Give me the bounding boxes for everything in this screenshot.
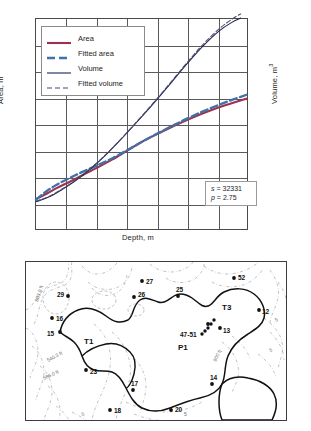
map-point-label-13: 13: [223, 327, 231, 334]
map-point-52: [232, 276, 236, 280]
map-point-label-52: 52: [238, 274, 246, 281]
y-axis-left-title: Area, m2: [0, 73, 5, 104]
legend-item-fitted-area: Fitted area: [46, 46, 139, 61]
map-point-label-17: 17: [131, 380, 139, 387]
map-point-17: [131, 388, 135, 392]
svg-text:586.0 ft: 586.0 ft: [42, 368, 60, 381]
map-point-15: [58, 330, 62, 334]
svg-text:5: 5: [268, 346, 273, 353]
map-point-12: [257, 308, 261, 312]
map-point-25: [176, 294, 180, 298]
map-point-16: [50, 316, 54, 320]
legend-swatch-volume: [46, 64, 72, 74]
map-point-27: [140, 279, 144, 283]
zone-p1: P1: [178, 343, 188, 352]
map-point-cluster-47-51: [203, 329, 206, 332]
map-point-label-14: 14: [210, 374, 218, 381]
map-point-label-29: 29: [57, 291, 65, 298]
map-point-label-15: 15: [47, 330, 55, 337]
lower-right-contour: [219, 377, 276, 420]
map-point-label-25: 25: [176, 286, 184, 293]
background-contours: [26, 262, 287, 421]
map-point-label-12: 12: [262, 308, 270, 315]
svg-text:540.3 ft: 540.3 ft: [46, 349, 64, 362]
legend-label-volume: Volume: [78, 64, 103, 73]
map-point-29: [66, 294, 70, 298]
legend-item-fitted-volume: Fitted volume: [46, 76, 139, 91]
svg-text:5: 5: [184, 411, 187, 417]
map-point-cluster-47-51: [212, 318, 215, 321]
map-point-label-20: 20: [175, 406, 183, 413]
map-point-cluster-47-51: [206, 326, 209, 329]
svg-text:603.0 ft: 603.0 ft: [33, 284, 44, 302]
map-point-label-26: 26: [138, 291, 146, 298]
map-point-label-27: 27: [146, 278, 154, 285]
map-point-cluster-47-51: [209, 322, 212, 325]
y-axis-right-title: Volume, m3: [268, 64, 279, 105]
chart-figure: Area, m2 Volume, m3 Depth, m Area Fitted…: [0, 0, 311, 250]
zone-t3: T3: [222, 303, 232, 312]
zone-divider-contour: [82, 343, 135, 388]
map-graphic: 603.0 ft 540.3 ft 586.0 ft 600 ft 5 5 5 …: [26, 262, 287, 421]
legend-item-area: Area: [46, 31, 139, 46]
x-axis-title: Depth, m: [122, 233, 154, 242]
map-point-23: [84, 368, 88, 372]
map-point-label-18: 18: [114, 407, 122, 414]
map-point-20: [169, 408, 173, 412]
contour-map-figure: 603.0 ft 540.3 ft 586.0 ft 600 ft 5 5 5 …: [25, 261, 287, 421]
legend-label-fitted-volume: Fitted volume: [78, 79, 123, 88]
map-point-14: [210, 382, 214, 386]
fit-parameters-box: s = 32331 p = 2.75: [205, 181, 257, 206]
parameter-s: s = 32331: [211, 184, 252, 193]
legend-label-area: Area: [78, 34, 94, 43]
map-point-label-16: 16: [56, 315, 64, 322]
map-point-label-47-51: 47-51: [180, 331, 197, 338]
svg-text:5: 5: [274, 316, 280, 323]
legend-item-volume: Volume: [46, 61, 139, 76]
map-point-cluster-47-51: [200, 332, 203, 335]
legend-swatch-fitted-area: [46, 49, 72, 59]
zone-t1: T1: [84, 337, 94, 346]
figure-page: Area, m2 Volume, m3 Depth, m Area Fitted…: [0, 0, 311, 431]
contour-elevation-labels: 603.0 ft 540.3 ft 586.0 ft 600 ft 5 5 5 …: [33, 284, 279, 417]
map-point-18: [108, 408, 112, 412]
map-frame: 603.0 ft 540.3 ft 586.0 ft 600 ft 5 5 5 …: [25, 261, 287, 421]
parameter-p: p = 2.75: [211, 193, 252, 202]
legend-swatch-fitted-volume: [46, 79, 72, 89]
svg-text:600 ft: 600 ft: [212, 348, 223, 362]
map-point-26: [132, 295, 136, 299]
chart-legend: Area Fitted area Volume Fitted volume: [41, 26, 145, 96]
map-point-label-23: 23: [90, 368, 98, 375]
legend-swatch-area: [46, 34, 72, 44]
legend-label-fitted-area: Fitted area: [78, 49, 114, 58]
map-point-13: [218, 326, 222, 330]
inner-dashed-contours: [43, 282, 144, 316]
svg-text:0: 0: [80, 410, 85, 417]
